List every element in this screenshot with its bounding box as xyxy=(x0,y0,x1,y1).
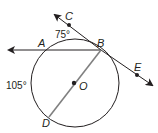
label-A: A xyxy=(37,37,45,49)
label-D: D xyxy=(42,117,50,129)
point-E-dot xyxy=(135,73,139,77)
label-B: B xyxy=(97,37,104,49)
point-C-dot xyxy=(67,23,71,27)
label-O: O xyxy=(79,80,88,92)
label-E: E xyxy=(134,61,142,73)
arc-label-75: 75° xyxy=(55,29,70,40)
geometry-diagram: C 75° A B E 105° O D xyxy=(0,0,158,133)
label-C: C xyxy=(65,10,73,22)
point-O-dot xyxy=(72,81,76,85)
tangent-line-toward-E xyxy=(101,50,152,85)
arc-label-105: 105° xyxy=(6,80,27,91)
